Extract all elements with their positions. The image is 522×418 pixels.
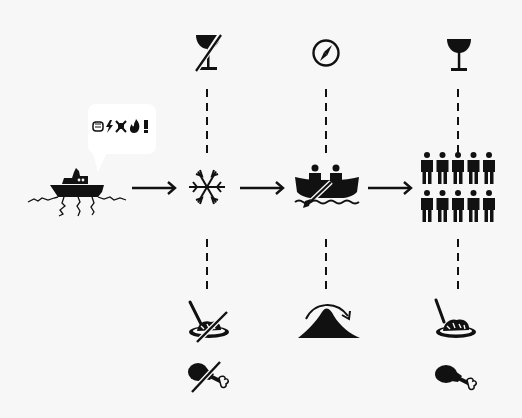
fist-icon xyxy=(93,122,103,131)
dashed-connector xyxy=(325,89,327,159)
over-mountain-icon xyxy=(296,300,362,340)
ship-stuck-in-ice-icon xyxy=(24,168,128,220)
dashed-connector xyxy=(457,89,459,159)
group-of-ten-people-icon: 10 xyxy=(421,152,497,226)
dashed-connector xyxy=(325,239,327,289)
no-meat-icon xyxy=(186,358,234,394)
grawlix-text: grawlix: fist, lightning, skull, fire, e… xyxy=(92,118,154,134)
grawlix-icons xyxy=(92,118,154,134)
rowboat-with-two-people-icon xyxy=(293,164,361,208)
exclamation-icon xyxy=(144,120,148,133)
meat-drumstick-icon xyxy=(434,362,482,394)
snowflake-icon xyxy=(187,167,227,207)
arrow-right-icon xyxy=(240,181,286,195)
arrow-right-icon xyxy=(132,181,178,195)
compass-icon xyxy=(311,38,341,68)
no-food-plate-icon xyxy=(185,298,233,344)
dashed-connector xyxy=(457,239,459,289)
skull-crossbones-icon xyxy=(116,121,126,132)
arrow-right-icon xyxy=(368,181,414,195)
fire-icon xyxy=(130,119,139,133)
no-drink-icon xyxy=(193,33,223,73)
food-plate-icon xyxy=(430,298,482,342)
drink-glass-icon xyxy=(444,34,474,74)
dashed-connector xyxy=(206,239,208,289)
dashed-connector xyxy=(206,89,208,159)
lightning-icon xyxy=(106,120,113,133)
